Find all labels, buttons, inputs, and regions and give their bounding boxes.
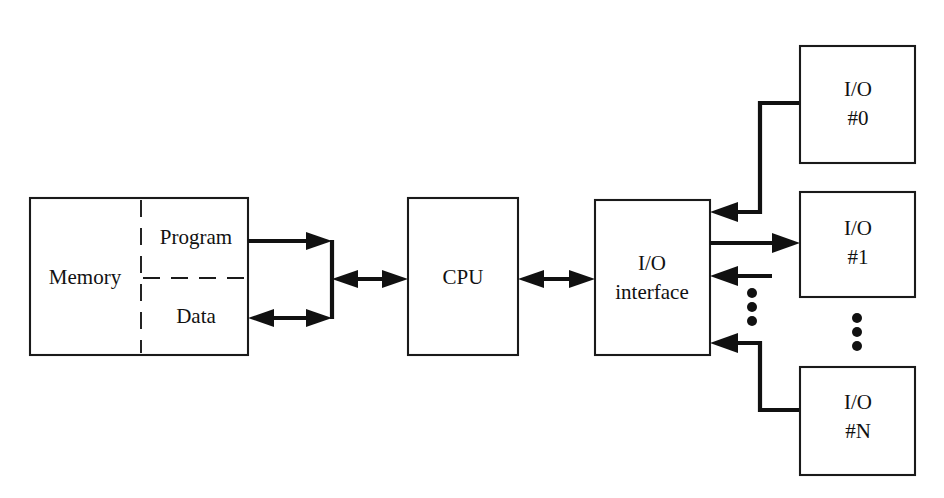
- cpu-label: CPU: [443, 265, 484, 289]
- devices-to-interface-connection: [710, 266, 772, 286]
- ellipsis-dot: [747, 316, 757, 326]
- io-interface-label-line1: I/O: [638, 251, 666, 275]
- memory-cpu-bus: [248, 232, 408, 327]
- data-bus-arrowhead-right: [306, 309, 332, 327]
- io-interface-block: I/O interface: [595, 200, 710, 355]
- ellipsis-dot: [852, 313, 862, 323]
- memory-program-label: Program: [160, 225, 232, 249]
- io1-arrowhead: [772, 233, 800, 253]
- io-interface-label-line2: interface: [615, 280, 688, 304]
- io-device-0-label-line2: #0: [848, 106, 869, 130]
- cpu-io-arrowhead-left: [518, 270, 544, 288]
- ion-to-interface-connection: [710, 333, 800, 410]
- io0-to-interface-connection: [710, 103, 800, 222]
- io-device-0-box: [800, 46, 915, 163]
- io-device-n-block: I/O #N: [800, 367, 915, 475]
- cpu-io-arrowhead-right: [569, 270, 595, 288]
- diagram-canvas: Memory Program Data CPU: [0, 0, 944, 498]
- io-device-0-block: I/O #0: [800, 46, 915, 163]
- ion-route: [728, 343, 800, 410]
- bus-to-cpu-arrowhead-right: [382, 270, 408, 288]
- io-device-1-block: I/O #1: [800, 192, 915, 297]
- io0-route: [728, 103, 800, 212]
- io-device-1-label-line2: #1: [848, 245, 869, 269]
- memory-block: Memory Program Data: [30, 198, 248, 355]
- data-bus-arrowhead-left: [248, 309, 274, 327]
- ellipsis-dot: [852, 341, 862, 351]
- io-device-n-label-line2: #N: [845, 419, 871, 443]
- ellipsis-dot: [747, 302, 757, 312]
- io-device-0-label-line1: I/O: [844, 77, 872, 101]
- cpu-io-interface-link: [518, 270, 595, 288]
- interface-side-ellipsis: [747, 288, 757, 326]
- bus-to-cpu-arrowhead-left: [332, 270, 358, 288]
- interface-to-io1-connection: [710, 233, 800, 253]
- ion-arrowhead: [710, 333, 738, 353]
- memory-label: Memory: [49, 265, 122, 289]
- device-side-ellipsis: [852, 313, 862, 351]
- ellipsis-dot: [747, 288, 757, 298]
- cpu-block: CPU: [408, 198, 518, 355]
- program-bus-arrowhead: [306, 232, 332, 250]
- io0-arrowhead: [710, 202, 738, 222]
- ellipsis-dot: [852, 327, 862, 337]
- memory-data-label: Data: [176, 304, 216, 328]
- io-device-n-label-line1: I/O: [844, 390, 872, 414]
- io-interface-box: [595, 200, 710, 355]
- block-diagram: Memory Program Data CPU: [0, 0, 944, 498]
- io-device-1-label-line1: I/O: [844, 216, 872, 240]
- mid-device-arrowhead: [710, 266, 738, 286]
